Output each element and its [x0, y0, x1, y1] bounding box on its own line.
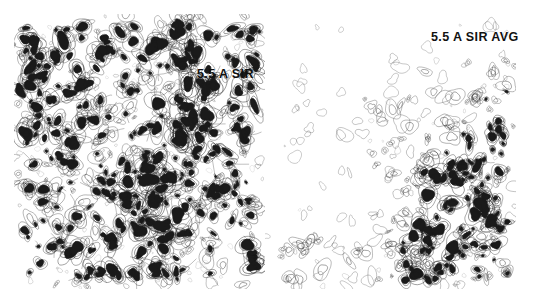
contour-map-canvas-left	[14, 14, 265, 289]
panel-label-left: 5.5 A SIR	[197, 67, 254, 81]
contour-map-panel-right	[265, 14, 516, 289]
figure-root: 5.5 A SIR 5.5 A SIR AVG	[0, 0, 535, 305]
panel-label-right: 5.5 A SIR AVG	[431, 30, 519, 44]
contour-map-panel-left	[14, 14, 265, 289]
contour-map-canvas-right	[265, 14, 516, 289]
